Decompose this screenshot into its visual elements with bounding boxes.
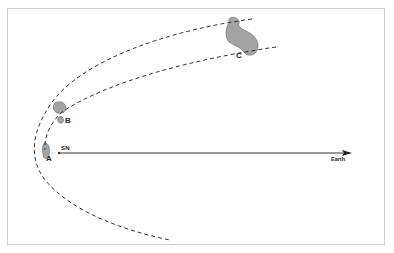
supernova-marker <box>58 152 60 154</box>
label-supernova: SN <box>61 145 70 151</box>
inner-parabola-curve <box>45 47 276 150</box>
label-point-c: C <box>236 52 242 60</box>
cloud-c <box>226 17 258 55</box>
label-point-b: B <box>65 117 71 125</box>
label-earth: Earth <box>331 157 345 163</box>
diagram-canvas <box>0 0 394 253</box>
outer-parabola-curve <box>34 19 252 240</box>
label-point-a: A <box>46 155 52 163</box>
